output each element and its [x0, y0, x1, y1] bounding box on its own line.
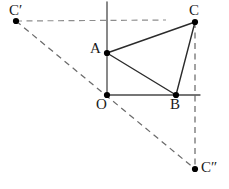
point-label-a: A: [90, 41, 101, 56]
point-label-o: O: [96, 97, 107, 112]
figure-canvas: [0, 0, 229, 189]
geometry-figure: C′ C A O B C″: [0, 0, 229, 189]
dashed-line-cprime-horizontal: [16, 20, 166, 21]
point-label-c: C: [189, 3, 199, 18]
point-dot-c: [192, 19, 198, 25]
triangle-edge-a-c: [107, 22, 195, 53]
point-label-c-prime: C′: [9, 3, 22, 18]
point-dot-c-double-prime: [192, 166, 198, 172]
point-label-b: B: [170, 97, 180, 112]
point-dot-a: [104, 50, 110, 56]
triangle-edge-c-b: [176, 22, 195, 95]
triangle-edge-b-a: [107, 53, 176, 95]
point-label-c-double-prime: C″: [201, 160, 217, 175]
point-dot-c-prime: [13, 18, 19, 24]
